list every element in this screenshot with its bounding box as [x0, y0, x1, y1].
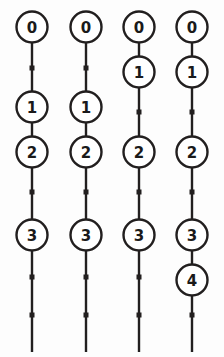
tick-marker	[84, 313, 89, 318]
node-label: 0	[187, 19, 197, 37]
tick-marker	[84, 66, 89, 71]
node-label: 4	[187, 272, 197, 290]
node-label: 2	[81, 144, 91, 162]
tick-marker	[190, 190, 195, 195]
tick-marker	[137, 190, 142, 195]
tick-marker	[84, 275, 89, 280]
node-label: 0	[81, 19, 91, 37]
node-label: 1	[27, 99, 37, 117]
node-label: 0	[27, 19, 37, 37]
tick-marker	[30, 190, 35, 195]
node-label: 1	[187, 64, 197, 82]
node-label: 0	[134, 19, 144, 37]
node-label: 1	[134, 64, 144, 82]
tick-marker	[30, 66, 35, 71]
tick-marker	[137, 110, 142, 115]
node-label: 2	[134, 144, 144, 162]
tick-marker	[84, 190, 89, 195]
node-label: 3	[134, 227, 144, 245]
tick-marker	[137, 275, 142, 280]
node-label: 1	[81, 99, 91, 117]
tick-marker	[190, 110, 195, 115]
timeline-lattice-figure: 01230123012301234	[0, 0, 224, 357]
column-4: 01234	[177, 12, 208, 353]
node-label: 3	[27, 227, 37, 245]
node-label: 3	[81, 227, 91, 245]
diagram-canvas: 01230123012301234	[0, 0, 224, 357]
tick-marker	[190, 313, 195, 318]
node-label: 3	[187, 227, 197, 245]
node-label: 2	[187, 144, 197, 162]
column-2: 0123	[71, 12, 102, 353]
tick-marker	[137, 313, 142, 318]
tick-marker	[30, 275, 35, 280]
column-3: 0123	[124, 12, 155, 353]
node-label: 2	[27, 144, 37, 162]
tick-marker	[30, 313, 35, 318]
column-1: 0123	[17, 12, 48, 353]
